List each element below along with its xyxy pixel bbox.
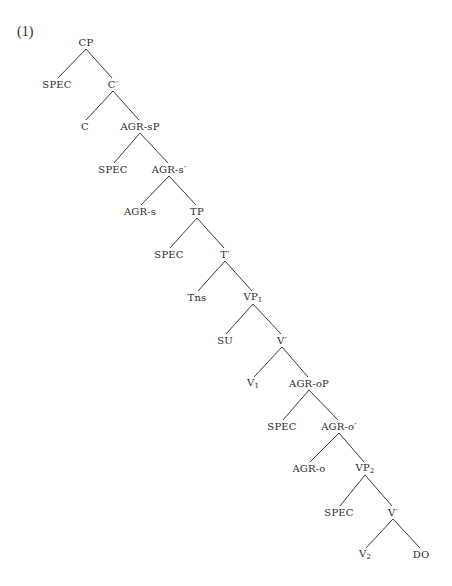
tree-edge-vbar1-v1 — [254, 347, 282, 377]
tree-edge-agrsp-spec2 — [114, 133, 140, 163]
tree-node-spec3: SPEC — [154, 250, 183, 260]
tree-edge-agrop-agrobar — [309, 390, 338, 420]
tree-edge-vbar2-do — [393, 519, 420, 548]
node-label-text: Tns — [188, 292, 207, 303]
tree-edge-cbar-c — [86, 91, 113, 120]
node-label-text: AGR-s — [152, 164, 184, 175]
tree-node-agrsbar: AGR-s′ — [152, 165, 187, 175]
tree-node-do: DO — [413, 550, 430, 560]
tree-edge-cp-spec1 — [58, 49, 86, 78]
tree-node-c: C — [81, 122, 89, 132]
tree-edge-tbar-tns — [198, 261, 225, 291]
tree-node-tp: TP — [190, 207, 204, 217]
node-label-text: C — [108, 79, 116, 90]
tree-edge-tp-tbar — [197, 218, 224, 248]
tree-node-su: SU — [217, 336, 233, 346]
tree-edge-vp2-vbar2 — [365, 475, 392, 506]
node-label-text: SPEC — [98, 164, 127, 175]
tree-node-vp1: VP1 — [243, 292, 262, 304]
node-label-text: VP — [243, 291, 257, 302]
node-subscript: 2 — [366, 553, 371, 561]
node-label-text: SPEC — [267, 421, 296, 432]
tree-node-agrobar: AGR-o′ — [321, 422, 357, 432]
tree-edge-vp1-vbar1 — [253, 304, 281, 334]
tree-node-tbar: T′ — [220, 250, 229, 260]
tree-node-agrop: AGR-oP — [289, 379, 329, 389]
tree-edge-agrop-spec4 — [283, 390, 309, 420]
prime-mark: ′ — [395, 507, 397, 518]
tree-node-agrsp: AGR-sP — [120, 122, 159, 132]
node-label-text: SPEC — [42, 79, 71, 90]
node-subscript: 1 — [254, 382, 259, 390]
tree-edge-tp-spec3 — [170, 218, 197, 248]
tree-node-v2: V2 — [359, 549, 371, 561]
node-label-text: TP — [190, 206, 204, 217]
tree-node-vp2: VP2 — [355, 463, 374, 475]
tree-edge-agrobar-agro — [310, 433, 339, 462]
node-label-text: SU — [217, 335, 233, 346]
node-label-text: DO — [413, 549, 430, 560]
node-subscript: 1 — [258, 296, 263, 304]
node-label-text: AGR-o — [321, 421, 354, 432]
tree-edge-vp1-su — [226, 304, 253, 334]
node-label-text: SPEC — [324, 507, 353, 518]
tree-node-spec5: SPEC — [324, 508, 353, 518]
tree-edge-cbar-agrsp — [113, 91, 139, 120]
prime-mark: ′ — [284, 335, 286, 346]
node-label-text: C — [81, 121, 89, 132]
tree-node-spec4: SPEC — [267, 422, 296, 432]
tree-node-agro: AGR-o — [292, 464, 325, 474]
tree-node-agrs: AGR-s — [124, 207, 156, 217]
tree-edge-cp-cbar — [86, 49, 112, 78]
tree-node-vbar1: V′ — [277, 336, 287, 346]
node-label-text: AGR-oP — [289, 378, 329, 389]
tree-node-v1: V1 — [247, 378, 259, 390]
node-label-text: T — [220, 249, 227, 260]
prime-mark: ′ — [354, 421, 356, 432]
tree-edge-vbar2-v2 — [366, 519, 393, 548]
prime-mark: ′ — [116, 79, 118, 90]
tree-edge-vbar1-agrop — [282, 347, 308, 377]
node-label-text: AGR-o — [292, 463, 325, 474]
tree-node-tns: Tns — [188, 293, 207, 303]
tree-edge-agrsbar-agrs — [141, 176, 169, 205]
tree-edge-agrobar-vp2 — [339, 433, 364, 462]
prime-mark: ′ — [227, 249, 229, 260]
node-label-text: SPEC — [154, 249, 183, 260]
tree-node-spec2: SPEC — [98, 165, 127, 175]
node-label-text: VP — [355, 462, 369, 473]
tree-node-cbar: C′ — [108, 80, 118, 90]
tree-node-vbar2: V′ — [388, 508, 398, 518]
tree-edge-agrsbar-tp — [169, 176, 196, 205]
tree-edge-vp2-spec5 — [340, 475, 365, 506]
prime-mark: ′ — [184, 164, 186, 175]
node-subscript: 2 — [370, 467, 375, 475]
tree-edge-agrsp-agrsbar — [140, 133, 168, 163]
tree-node-cp: CP — [79, 38, 94, 48]
tree-node-spec1: SPEC — [42, 80, 71, 90]
node-label-text: AGR-s — [124, 206, 156, 217]
node-label-text: AGR-sP — [120, 121, 159, 132]
tree-edge-tbar-vp1 — [225, 261, 252, 291]
node-label-text: CP — [79, 37, 94, 48]
